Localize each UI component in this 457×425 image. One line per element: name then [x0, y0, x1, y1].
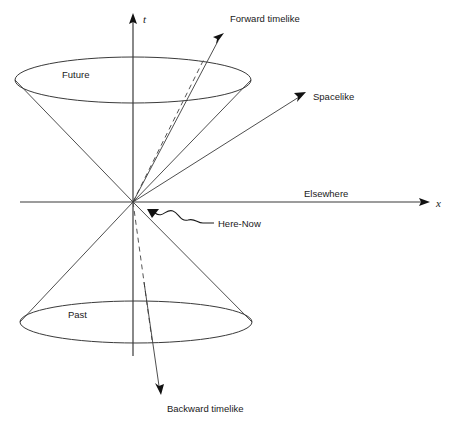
future-cone-left-edge — [15, 80, 133, 202]
here-now-callout — [147, 209, 214, 223]
forward-timelike-label: Forward timelike — [230, 13, 300, 24]
spacelike-label: Spacelike — [313, 91, 354, 102]
axes — [20, 13, 430, 356]
past-cone-rim-ellipse — [20, 301, 252, 343]
backward-timelike-arrowhead — [155, 383, 164, 395]
forward-timelike-line — [133, 41, 218, 202]
x-axis-label: x — [435, 197, 441, 209]
future-region-label: Future — [62, 69, 89, 80]
here-now-arrowhead — [147, 209, 159, 218]
past-region-label: Past — [68, 309, 87, 320]
backward-timelike-vector — [133, 202, 164, 395]
here-now-label: Here-Now — [218, 218, 261, 229]
light-cone-diagram: t x Future Past Elsewhere Forward timeli… — [0, 0, 457, 425]
spacelike-line — [133, 97, 299, 202]
t-axis-label: t — [143, 13, 147, 25]
spacelike-arrowhead — [294, 92, 306, 102]
backward-timelike-label: Backward timelike — [167, 403, 244, 414]
forward-timelike-dashed-segment — [133, 57, 205, 202]
elsewhere-region-label: Elsewhere — [304, 188, 348, 199]
here-now-leader-line — [155, 210, 214, 223]
spacelike-vector — [133, 92, 306, 202]
forward-timelike-arrowhead — [213, 33, 224, 44]
backward-timelike-line — [144, 282, 159, 386]
light-cone-canvas: t x Future Past Elsewhere Forward timeli… — [0, 0, 457, 425]
future-cone-right-edge — [133, 80, 251, 202]
